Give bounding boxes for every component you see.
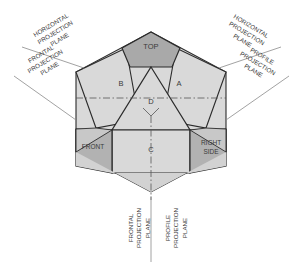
callout-line: PROFILE [164, 215, 171, 241]
leader-line-bottom-left [14, 76, 76, 120]
callout-line: FRONTAL [127, 213, 134, 242]
face-label-right-side-line2: SIDE [203, 148, 219, 155]
face-label-top: TOP [143, 42, 158, 51]
diagram-canvas: TOP B A D C FRONT RIGHT SIDE HORIZONTAL … [0, 0, 300, 269]
callout-profile-projection-plane-bottom: PROFILE PROJECTION PLANE [164, 208, 188, 248]
callout-line: PLANE [181, 218, 188, 238]
face-label-front: FRONT [82, 143, 104, 150]
callout-frontal-projection-plane-left: FRONTAL PROJECTION PLANE [22, 41, 68, 82]
callout-horizontal-projection-plane-right: HORIZONTAL PROJECTION PLANE [224, 13, 271, 54]
leader-line-bottom-right [226, 76, 289, 120]
callout-horizontal-projection-plane-left: HORIZONTAL PROJECTION PLANE [32, 11, 79, 52]
callout-line: PROJECTION [135, 208, 142, 248]
face-label-d: D [148, 97, 154, 106]
face-label-right-side-line1: RIGHT [201, 139, 221, 146]
callout-frontal-projection-plane-bottom: FRONTAL PROJECTION PLANE [127, 208, 151, 248]
face-label-b: B [118, 79, 123, 88]
callout-line: PLANE [144, 218, 151, 238]
callout-profile-projection-plane-right: PROFILE PROJECTION PLANE [235, 43, 281, 84]
face-label-a: A [176, 79, 181, 88]
face-label-c: C [148, 145, 154, 154]
projection-plane-diagram: TOP B A D C FRONT RIGHT SIDE HORIZONTAL … [0, 0, 300, 269]
callout-line: PROJECTION [172, 208, 179, 248]
